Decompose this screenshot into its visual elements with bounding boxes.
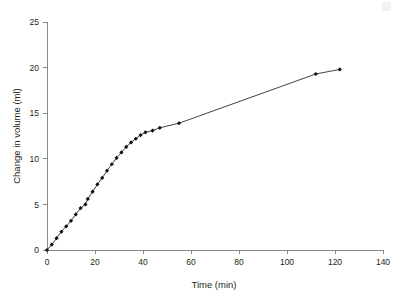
y-axis-title: Change in volume (ml) bbox=[11, 88, 22, 184]
x-tick-label: 60 bbox=[186, 257, 196, 267]
x-tick-label: 100 bbox=[280, 257, 294, 267]
x-tick-label: 140 bbox=[376, 257, 390, 267]
plot-background bbox=[0, 0, 413, 297]
x-tick-label: 80 bbox=[234, 257, 244, 267]
x-tick-label: 40 bbox=[138, 257, 148, 267]
x-tick-label: 120 bbox=[328, 257, 342, 267]
y-tick-label: 25 bbox=[30, 17, 40, 27]
line-chart: 020406080100120140 0510152025 Time (min)… bbox=[0, 0, 413, 297]
x-tick-label: 0 bbox=[45, 257, 50, 267]
y-tick-label: 20 bbox=[30, 63, 40, 73]
y-tick-label: 15 bbox=[30, 108, 40, 118]
y-tick-label: 0 bbox=[34, 245, 39, 255]
chart-figure: 020406080100120140 0510152025 Time (min)… bbox=[0, 0, 413, 297]
x-axis-title: Time (min) bbox=[191, 279, 236, 290]
y-tick-label: 5 bbox=[34, 200, 39, 210]
y-tick-label: 10 bbox=[30, 154, 40, 164]
x-tick-label: 20 bbox=[90, 257, 100, 267]
page-corner-artifact bbox=[382, 2, 391, 11]
